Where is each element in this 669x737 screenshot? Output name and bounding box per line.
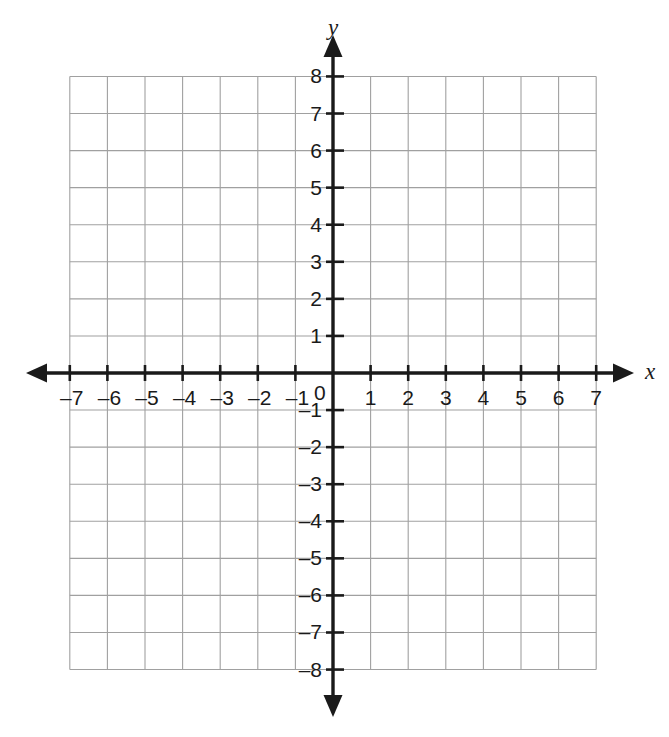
x-tick-label: 4 <box>463 387 503 408</box>
axis-arrowheads <box>26 35 634 717</box>
y-tick-label: –3 <box>278 473 322 494</box>
y-tick-label: 6 <box>278 140 322 161</box>
x-tick-label: 2 <box>388 387 428 408</box>
x-axis-left-arrowhead <box>26 364 47 383</box>
y-tick-label: –4 <box>278 510 322 531</box>
y-tick-label: 7 <box>278 103 322 124</box>
x-tick-label: 5 <box>501 387 541 408</box>
y-tick-label: –5 <box>278 547 322 568</box>
x-tick-label: 1 <box>351 387 391 408</box>
x-tick-label: –2 <box>240 387 280 408</box>
y-axis-label: y <box>328 16 338 39</box>
y-axis-bottom-arrowhead <box>324 695 343 717</box>
x-tick-label: 7 <box>576 387 616 408</box>
y-tick-label: 5 <box>278 177 322 198</box>
y-tick-label: 1 <box>278 325 322 346</box>
x-tick-label: –3 <box>202 387 242 408</box>
x-axis-right-arrowhead <box>613 364 634 383</box>
y-tick-label: –7 <box>278 621 322 642</box>
x-tick-label: –4 <box>165 387 205 408</box>
axis-lines <box>34 44 626 708</box>
coordinate-plane-figure: –7–6–5–4–3–2–11234567 87654321–1–2–3–4–5… <box>0 0 669 737</box>
origin-label: 0 <box>314 382 326 403</box>
x-axis-label: x <box>645 360 655 383</box>
y-tick-label: –6 <box>278 584 322 605</box>
x-tick-label: –5 <box>127 387 167 408</box>
y-tick-label: –8 <box>278 659 322 680</box>
coordinate-grid-svg <box>0 0 669 737</box>
x-tick-label: 3 <box>426 387 466 408</box>
y-tick-label: 3 <box>278 251 322 272</box>
x-tick-label: –6 <box>89 387 129 408</box>
x-tick-label: –7 <box>52 387 92 408</box>
y-tick-label: 8 <box>278 65 322 86</box>
y-tick-label: –2 <box>278 436 322 457</box>
y-tick-label: 4 <box>278 214 322 235</box>
x-tick-label: 6 <box>539 387 579 408</box>
y-tick-label: 2 <box>278 288 322 309</box>
